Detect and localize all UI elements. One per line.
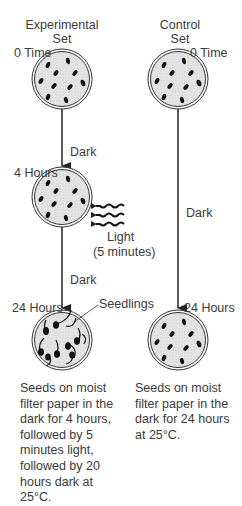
experimental-time-24h: 24 Hours bbox=[12, 301, 63, 316]
experimental-title-line2: Set bbox=[22, 32, 102, 47]
control-step-condition: Dark bbox=[186, 206, 212, 221]
experimental-step2-condition: Dark bbox=[70, 273, 96, 288]
experimental-step1-condition: Dark bbox=[70, 145, 96, 160]
control-title-line1: Control bbox=[150, 18, 210, 33]
control-caption: Seeds on moist filter paper in the dark … bbox=[135, 381, 242, 443]
experimental-title-line1: Experimental bbox=[22, 18, 102, 33]
light-arrows-icon bbox=[96, 205, 124, 226]
seedlings-leader-line bbox=[74, 305, 98, 322]
control-time-24h: 24 Hours bbox=[184, 301, 235, 316]
light-label: Light bbox=[107, 230, 134, 245]
experimental-caption: Seeds on moist filter paper in the dark … bbox=[20, 381, 138, 506]
seedlings-label: Seedlings bbox=[99, 297, 154, 312]
experimental-dish-24h bbox=[32, 310, 92, 370]
experimental-time-4h: 4 Hours bbox=[14, 166, 58, 181]
light-duration-label: (5 minutes) bbox=[93, 245, 156, 260]
experimental-time-0: 0 Time bbox=[14, 46, 52, 61]
control-dish-24h bbox=[148, 310, 208, 370]
control-time-0: 0 Time bbox=[190, 46, 228, 61]
control-title-line2: Set bbox=[150, 32, 210, 47]
